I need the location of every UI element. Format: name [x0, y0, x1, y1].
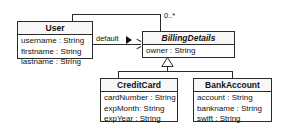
attribute-row: firstname : String	[21, 47, 92, 58]
association-multiplicity-label: 0..*	[164, 11, 175, 20]
attribute-row: cardNumber : String	[104, 93, 177, 104]
association-arrowhead-icon	[136, 40, 142, 48]
attribute-row: lastname : String	[21, 57, 92, 68]
generalization-branch-creditcard	[118, 71, 119, 78]
generalization-fork-horizontal	[118, 71, 233, 72]
attribute-row: expYear : String	[104, 114, 177, 124]
attribute-row: swift : String	[197, 114, 271, 124]
attribute-row: bankname : String	[197, 104, 271, 115]
class-name-user: User	[18, 22, 92, 35]
navigability-triangle-icon	[126, 36, 132, 44]
attribute-row: username : String	[21, 36, 92, 47]
assoc-default-line	[92, 44, 141, 45]
class-box-billingdetails[interactable]: BillingDetails owner : String	[142, 31, 235, 58]
attribute-row: owner : String	[146, 46, 234, 57]
class-box-bankaccount[interactable]: BankAccount account : String bankname : …	[193, 78, 272, 122]
class-attributes-user: username : String firstname : String las…	[18, 35, 92, 69]
class-box-user[interactable]: User username : String firstname : Strin…	[17, 21, 93, 59]
assoc-multiplicity-line-right-vertical	[160, 14, 161, 31]
attribute-row: account : String	[197, 93, 271, 104]
class-name-billingdetails: BillingDetails	[143, 32, 234, 45]
association-default-label: default	[96, 34, 119, 43]
attribute-row: expMonth: String	[104, 104, 177, 115]
generalization-triangle-icon	[161, 57, 174, 67]
class-attributes-billingdetails: owner : String	[143, 45, 234, 58]
class-attributes-creditcard: cardNumber : String expMonth: String exp…	[101, 92, 177, 124]
class-box-creditcard[interactable]: CreditCard cardNumber : String expMonth:…	[100, 78, 178, 122]
class-name-creditcard: CreditCard	[101, 79, 177, 92]
class-name-bankaccount: BankAccount	[194, 79, 271, 92]
generalization-branch-bankaccount	[232, 71, 233, 78]
assoc-multiplicity-line-horizontal	[72, 14, 161, 15]
class-attributes-bankaccount: account : String bankname : String swift…	[194, 92, 271, 124]
uml-class-diagram: 0..* default User username : String firs…	[0, 0, 282, 124]
